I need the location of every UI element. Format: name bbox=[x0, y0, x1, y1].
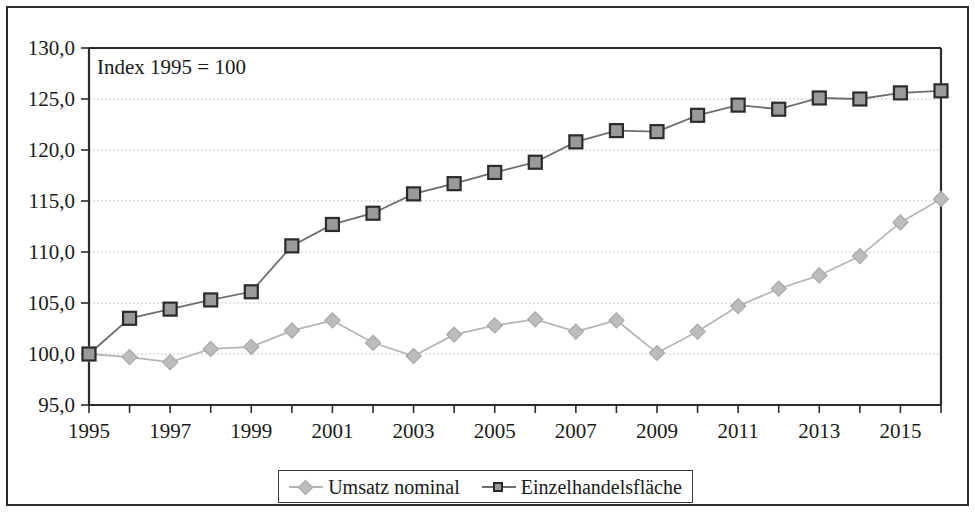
index-annotation: Index 1995 = 100 bbox=[97, 55, 246, 80]
data-point-marker bbox=[772, 103, 785, 116]
data-point-marker bbox=[894, 86, 907, 99]
data-point-marker bbox=[407, 187, 420, 200]
data-point-marker bbox=[123, 312, 136, 325]
x-tick-label-2001: 2001 bbox=[311, 419, 353, 443]
legend-square-marker-icon bbox=[482, 480, 516, 494]
data-point-marker bbox=[568, 324, 583, 339]
x-tick-labels-group: 1995199719992001200320052007200920112013… bbox=[68, 419, 921, 443]
y-tick-label-105: 105,0 bbox=[28, 291, 75, 315]
data-point-marker bbox=[83, 348, 96, 361]
x-tick-label-2003: 2003 bbox=[393, 419, 435, 443]
data-point-marker bbox=[244, 339, 259, 354]
series-line-einzelhandelsflaeche bbox=[89, 91, 941, 354]
series-line-umsatz-nominal bbox=[89, 199, 941, 362]
data-point-marker bbox=[771, 281, 786, 296]
data-point-marker bbox=[245, 285, 258, 298]
series-lines-group bbox=[89, 91, 941, 362]
data-point-marker bbox=[447, 327, 462, 342]
x-tick-label-2015: 2015 bbox=[879, 419, 921, 443]
data-point-marker bbox=[487, 318, 502, 333]
data-point-marker bbox=[448, 177, 461, 190]
data-point-marker bbox=[326, 218, 339, 231]
data-point-marker bbox=[406, 349, 421, 364]
data-point-marker bbox=[853, 93, 866, 106]
data-point-marker bbox=[528, 312, 543, 327]
data-point-marker bbox=[366, 335, 381, 350]
x-tick-label-1997: 1997 bbox=[149, 419, 191, 443]
y-tick-label-100: 100,0 bbox=[28, 342, 75, 366]
y-tick-label-120: 120,0 bbox=[28, 138, 75, 162]
x-tick-label-2009: 2009 bbox=[636, 419, 678, 443]
data-point-marker bbox=[731, 299, 746, 314]
chart-figure: 95,0100,0105,0110,0115,0120,0125,0130,0 … bbox=[0, 0, 975, 521]
data-point-marker bbox=[122, 350, 137, 365]
data-point-marker bbox=[325, 313, 340, 328]
x-tick-label-2005: 2005 bbox=[474, 419, 516, 443]
legend-item-umsatz-nominal[interactable]: Umsatz nominal bbox=[289, 477, 460, 497]
legend-item-einzelhandelsflaeche[interactable]: Einzelhandelsfläche bbox=[482, 477, 682, 497]
x-tick-marks-group bbox=[89, 405, 941, 413]
data-point-marker bbox=[813, 91, 826, 104]
data-point-marker bbox=[935, 84, 948, 97]
chart-plot-area: 95,0100,0105,0110,0115,0120,0125,0130,0 … bbox=[0, 0, 975, 521]
chart-legend: Umsatz nominal Einzelhandelsfläche bbox=[278, 470, 693, 503]
data-point-marker bbox=[163, 355, 178, 370]
legend-label-umsatz-nominal: Umsatz nominal bbox=[328, 477, 460, 497]
data-point-marker bbox=[488, 166, 501, 179]
y-tick-label-110: 110,0 bbox=[29, 240, 75, 264]
data-point-marker bbox=[367, 207, 380, 220]
data-point-marker bbox=[285, 239, 298, 252]
x-tick-label-1999: 1999 bbox=[230, 419, 272, 443]
data-point-marker bbox=[934, 191, 949, 206]
y-tick-label-125: 125,0 bbox=[28, 87, 75, 111]
data-point-marker bbox=[204, 293, 217, 306]
data-point-marker bbox=[732, 99, 745, 112]
data-point-marker bbox=[284, 323, 299, 338]
x-tick-label-1995: 1995 bbox=[68, 419, 110, 443]
y-tick-label-95: 95,0 bbox=[38, 393, 75, 417]
data-point-marker bbox=[690, 324, 705, 339]
data-point-marker bbox=[569, 135, 582, 148]
data-point-marker bbox=[812, 268, 827, 283]
y-tick-labels-group: 95,0100,0105,0110,0115,0120,0125,0130,0 bbox=[28, 36, 75, 417]
legend-label-einzelhandelsflaeche: Einzelhandelsfläche bbox=[521, 477, 682, 497]
x-tick-label-2007: 2007 bbox=[555, 419, 597, 443]
y-tick-label-115: 115,0 bbox=[29, 189, 75, 213]
series-markers-group bbox=[82, 84, 949, 369]
data-point-marker bbox=[529, 156, 542, 169]
data-point-marker bbox=[691, 109, 704, 122]
x-tick-label-2013: 2013 bbox=[798, 419, 840, 443]
x-tick-label-2011: 2011 bbox=[718, 419, 759, 443]
data-point-marker bbox=[610, 124, 623, 137]
y-tick-label-130: 130,0 bbox=[28, 36, 75, 60]
data-point-marker bbox=[164, 303, 177, 316]
legend-diamond-marker-icon bbox=[289, 480, 323, 494]
data-point-marker bbox=[651, 125, 664, 138]
